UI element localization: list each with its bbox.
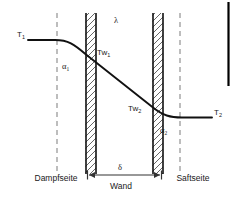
wall-left-hatch xyxy=(86,13,97,174)
label-dampfseite: Dampfseite xyxy=(35,173,78,183)
label-delta: δ xyxy=(118,162,122,172)
label-alpha2-subscript: 2 xyxy=(164,130,167,136)
label-tw2-subscript: 2 xyxy=(138,108,141,114)
label-tw1-subscript: 1 xyxy=(107,52,110,58)
temperature-profile-diagram: T1 T2 Tw1 Tw2 α1 α2 λ δ Wand Dampfseite xyxy=(0,0,237,199)
label-tw1-text: Tw xyxy=(97,48,107,57)
label-alpha1-subscript: 1 xyxy=(66,66,69,72)
label-wand: Wand xyxy=(110,181,132,191)
label-t1-subscript: 1 xyxy=(22,34,25,40)
label-tw2-text: Tw xyxy=(128,104,138,113)
label-t2-subscript: 2 xyxy=(219,112,222,118)
label-saftseite: Saftseite xyxy=(176,173,209,183)
wall-right-face xyxy=(153,13,164,174)
diagram-canvas: T1 T2 Tw1 Tw2 α1 α2 λ δ Wand Dampfseite xyxy=(0,0,237,199)
wall-right-hatch xyxy=(153,13,164,174)
wall-left-face xyxy=(86,13,97,174)
